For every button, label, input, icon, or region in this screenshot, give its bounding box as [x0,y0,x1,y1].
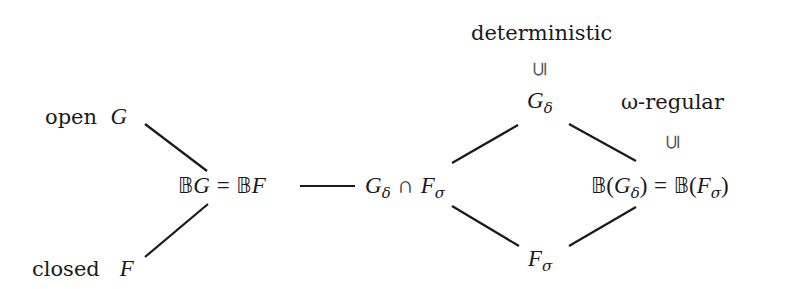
edge-open-to-boolean [145,124,207,171]
intersection-operator: ∩ [397,173,414,198]
symbol-f: F [421,173,435,198]
node-open: open G [45,105,127,129]
subscript-sigma: σ [711,184,721,202]
equals: = [217,173,230,198]
edge-intersection-to-fsigma [452,206,519,246]
edge-fsigma-to-boolean-gdelta [569,207,636,246]
node-closed: closed F [32,257,134,281]
annotation-deterministic: deterministic [471,21,612,45]
edge-closed-to-boolean [145,204,208,257]
subscript-delta: δ [382,184,391,202]
blackboard-b: 𝔹 [591,174,606,198]
blackboard-b: 𝔹 [236,174,251,198]
symbol-g: G [527,88,544,113]
symbol-f: F [252,173,266,198]
node-boolean-open-closed: 𝔹G = 𝔹F [178,174,266,198]
subseteq-icon: ⊆ [662,134,682,151]
subscript-delta: δ [631,184,640,202]
blackboard-b: 𝔹 [178,174,193,198]
edge-gdelta-to-boolean-gdelta [569,124,636,161]
open-label: open [45,105,97,129]
closed-symbol: F [120,256,134,281]
edge-intersection-to-gdelta [452,125,518,163]
annotation-omega-regular: ω-regular [621,90,724,114]
subseteq-icon: ⊆ [529,61,549,78]
symbol-g: G [193,173,210,198]
node-gdelta: Gδ [527,89,553,113]
open-paren: ( [606,173,614,198]
symbol-g: G [614,173,631,198]
open-symbol: G [110,104,127,129]
subscript-delta: δ [544,99,553,117]
symbol-f: F [697,173,711,198]
subscript-sigma: σ [542,257,552,275]
close-paren: ) [721,173,729,198]
open-paren: ( [689,173,697,198]
node-boolean-gdelta-fsigma: 𝔹(Gδ) = 𝔹(Fσ) [591,174,729,198]
subscript-sigma: σ [435,184,445,202]
blackboard-b: 𝔹 [674,174,689,198]
node-gdelta-cap-fsigma: Gδ ∩ Fσ [365,174,445,198]
symbol-g: G [365,173,382,198]
closed-label: closed [32,257,100,281]
equals: = [654,173,667,198]
close-paren: ) [640,173,648,198]
node-fsigma: Fσ [528,247,552,271]
symbol-f: F [528,246,542,271]
